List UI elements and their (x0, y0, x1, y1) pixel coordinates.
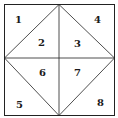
region-label-4: 4 (94, 14, 101, 25)
region-label-6: 6 (39, 67, 46, 78)
region-label-7: 7 (74, 67, 81, 78)
region-label-3: 3 (74, 38, 81, 49)
region-label-2: 2 (38, 37, 45, 48)
region-label-5: 5 (16, 99, 23, 110)
folded-square-diagram: 1 2 3 4 5 6 7 8 (0, 0, 118, 118)
region-label-1: 1 (15, 14, 22, 25)
region-label-8: 8 (97, 97, 104, 108)
